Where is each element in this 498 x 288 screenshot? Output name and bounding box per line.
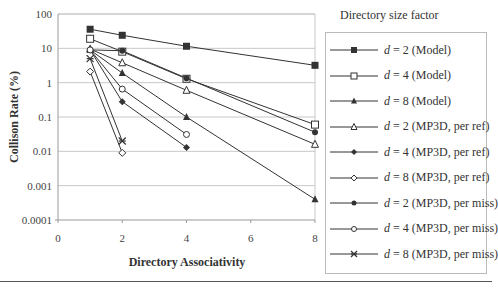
series-line — [90, 50, 186, 135]
y-tick-label: 0.1 — [38, 111, 52, 123]
marker-circle-open — [119, 86, 125, 92]
legend-swatch — [326, 120, 380, 134]
marker-circle-filled — [352, 201, 357, 206]
legend-title: Directory size factor — [340, 8, 439, 23]
legend-label: d = 4 (Model) — [384, 68, 451, 83]
footer-divider — [0, 281, 492, 282]
marker-triangle-filled — [119, 69, 126, 76]
y-tick-label: 0.001 — [27, 180, 52, 192]
gridlines — [58, 14, 315, 186]
legend-label-text: = 8 (Model) — [390, 94, 451, 108]
marker-triangle-filled — [312, 195, 319, 202]
marker-triangle-open — [183, 86, 190, 93]
marker-square-open — [312, 121, 319, 128]
y-tick-label: 0.0001 — [22, 214, 52, 226]
marker-circle-filled — [184, 75, 190, 81]
x-tick-label: 6 — [248, 232, 254, 244]
marker-square-filled — [351, 47, 357, 53]
legend-item: d = 4 (Model) — [326, 65, 451, 87]
legend-swatch — [326, 43, 380, 57]
legend-label: d = 8 (MP3D, per ref) — [384, 170, 489, 185]
legend-label-text: = 2 (MP3D, per miss) — [390, 196, 498, 210]
legend-item: d = 2 (MP3D, per miss) — [326, 192, 498, 214]
legend-item: d = 2 (MP3D, per ref) — [326, 116, 489, 138]
marker-square-filled — [183, 43, 190, 50]
legend-item: d = 4 (MP3D, per miss) — [326, 218, 498, 240]
legend-item: d = 2 (Model) — [326, 39, 451, 61]
legend-swatch — [326, 69, 380, 83]
marker-diamond-open — [87, 68, 94, 75]
legend-swatch — [326, 145, 380, 159]
legend-item: d = 4 (MP3D, per ref) — [326, 141, 489, 163]
series-8 — [87, 47, 189, 138]
x-axis-title: Directory Associativity — [129, 255, 246, 269]
marker-square-open — [351, 73, 357, 79]
series-5 — [87, 46, 190, 151]
legend-swatch — [326, 222, 380, 236]
marker-square-open — [87, 35, 94, 42]
legend-label-text: = 2 (Model) — [390, 43, 451, 57]
y-axis-title: Collison Rate (%) — [7, 71, 21, 163]
legend-label: d = 2 (Model) — [384, 43, 451, 58]
legend-label: d = 2 (MP3D, per ref) — [384, 119, 489, 134]
legend-item: d = 8 (MP3D, per ref) — [326, 167, 489, 189]
legend-label: d = 2 (MP3D, per miss) — [384, 196, 498, 211]
legend-label-text: = 4 (MP3D, per miss) — [390, 221, 498, 235]
marker-diamond-open — [119, 149, 126, 156]
marker-diamond-open — [351, 175, 357, 181]
legend-label-text: = 8 (MP3D, per ref) — [390, 170, 489, 184]
marker-square-filled — [87, 26, 94, 33]
legend-label: d = 8 (MP3D, per miss) — [384, 247, 498, 262]
series-9 — [87, 55, 126, 144]
series-line — [90, 50, 186, 148]
series-line — [90, 59, 122, 141]
marker-circle-filled — [119, 48, 125, 54]
legend-swatch — [326, 94, 380, 108]
legend-label: d = 8 (Model) — [384, 94, 451, 109]
legend-item: d = 8 (MP3D, per miss) — [326, 243, 498, 265]
marker-circle-open — [352, 226, 357, 231]
legend-label: d = 4 (MP3D, per miss) — [384, 221, 498, 236]
legend-label-text: = 8 (MP3D, per miss) — [390, 247, 498, 261]
legend: d = 2 (Model)d = 4 (Model)d = 8 (Model)d… — [325, 32, 487, 274]
marker-star — [351, 251, 357, 257]
y-tick-labels: 1001010.10.010.0010.0001 — [22, 8, 53, 226]
marker-circle-open — [87, 47, 93, 53]
legend-label-text: = 4 (MP3D, per ref) — [390, 145, 489, 159]
x-tick-label: 0 — [55, 232, 61, 244]
marker-diamond-filled — [183, 144, 190, 151]
legend-label-text: = 2 (MP3D, per ref) — [390, 119, 489, 133]
marker-circle-open — [184, 131, 190, 137]
series-3 — [87, 46, 319, 202]
marker-square-filled — [119, 32, 126, 39]
x-tick-labels: 02468 — [55, 232, 318, 244]
legend-swatch — [326, 171, 380, 185]
legend-swatch — [326, 247, 380, 261]
y-tick-label: 10 — [41, 42, 53, 54]
y-tick-label: 0.01 — [33, 145, 52, 157]
series-group — [87, 26, 319, 203]
legend-item: d = 8 (Model) — [326, 90, 451, 112]
y-tick-label: 1 — [47, 77, 53, 89]
y-tick-label: 100 — [36, 8, 53, 20]
legend-label-text: = 4 (Model) — [390, 68, 451, 82]
marker-diamond-filled — [351, 149, 357, 155]
legend-swatch — [326, 196, 380, 210]
marker-square-filled — [312, 62, 319, 69]
x-tick-label: 8 — [312, 232, 318, 244]
marker-star — [119, 137, 126, 144]
legend-label: d = 4 (MP3D, per ref) — [384, 145, 489, 160]
marker-diamond-filled — [119, 98, 126, 105]
x-tick-label: 2 — [120, 232, 126, 244]
x-tick-label: 4 — [184, 232, 190, 244]
marker-star — [87, 55, 94, 62]
marker-circle-filled — [312, 129, 318, 135]
